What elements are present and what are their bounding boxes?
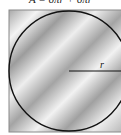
circle-in-square-diagram: r	[0, 0, 121, 135]
radius-label: r	[100, 59, 104, 70]
